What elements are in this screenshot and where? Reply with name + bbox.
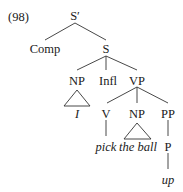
node-vp: VP: [129, 74, 145, 88]
word-I: I: [74, 107, 80, 121]
node-v: V: [101, 107, 110, 121]
node-pp: PP: [161, 107, 175, 121]
edge-s-vp: [106, 56, 137, 70]
node-s-bar: S′: [70, 9, 80, 23]
np-obj-triangle: [124, 123, 151, 139]
edge-s-np: [77, 56, 106, 70]
node-np-obj: NP: [129, 107, 145, 121]
node-comp: Comp: [30, 42, 61, 56]
node-p: P: [165, 140, 172, 154]
node-np-subj: NP: [69, 74, 85, 88]
syntax-tree-diagram: (98) S′ Comp S NP Infl VP I V NP PP pick…: [0, 0, 183, 192]
word-up: up: [162, 173, 175, 187]
edge-sbar-comp: [45, 23, 75, 40]
edge-vp-v: [107, 87, 137, 103]
words-the-ball: the ball: [119, 140, 157, 154]
example-number: (98): [8, 10, 29, 24]
np-subj-triangle: [64, 90, 90, 106]
edge-vp-pp: [137, 87, 168, 103]
word-pick: pick: [95, 140, 117, 154]
node-infl: Infl: [99, 74, 118, 88]
edge-sbar-s: [75, 23, 106, 40]
node-s: S: [103, 42, 110, 56]
